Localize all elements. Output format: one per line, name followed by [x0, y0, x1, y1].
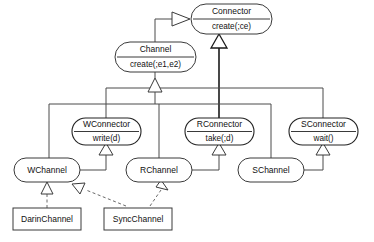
node-schannel[interactable]: SChannel: [238, 158, 304, 182]
node-wconnector-operation: write(d): [92, 134, 121, 143]
node-darinchannel[interactable]: DarinChannel: [13, 208, 81, 230]
node-connector-name: Connector: [212, 6, 251, 16]
node-rchannel-name: RChannel: [140, 165, 178, 175]
uml-class-diagram: Connector create(;ce) Channel create(;e1…: [0, 0, 374, 242]
node-rconnector-name: RConnector: [197, 119, 243, 129]
edge-syncchannel-to-rchannel: [150, 190, 161, 206]
edge-rchannel-to-rconnector: [192, 155, 219, 170]
edge-syncchannel-to-wchannel: [86, 190, 126, 206]
node-channel-name: Channel: [140, 44, 172, 54]
node-channel[interactable]: Channel create(;e1,e2): [115, 42, 196, 72]
arrowhead-syncchannel-to-wchannel: [72, 183, 85, 194]
node-wconnector[interactable]: WConnector write(d): [72, 118, 141, 145]
edge-wchannel-to-wconnector: [80, 155, 106, 170]
node-syncchannel-name: SyncChannel: [113, 214, 164, 224]
node-wchannel-name: WChannel: [27, 165, 67, 175]
arrowhead-to-channel: [148, 78, 162, 92]
edge-channel-to-connector: [155, 19, 172, 42]
node-rconnector-operation: take(;d): [206, 134, 234, 143]
arrowhead-darinchannel-to-wchannel: [41, 182, 53, 194]
node-connector-operation: create(;ce): [212, 22, 251, 31]
node-wconnector-name: WConnector: [83, 119, 130, 129]
node-wchannel[interactable]: WChannel: [14, 158, 80, 182]
edge-schannel-to-sconnector: [304, 155, 323, 170]
node-sconnector[interactable]: SConnector wait(): [289, 118, 358, 145]
diagram-canvas: Connector create(;ce) Channel create(;e1…: [0, 0, 374, 242]
node-channel-operation: create(;e1,e2): [130, 60, 181, 69]
node-connector[interactable]: Connector create(;ce): [191, 4, 272, 34]
node-syncchannel[interactable]: SyncChannel: [104, 208, 172, 230]
arrowhead-rconnector-to-connector: [211, 34, 227, 48]
arrowhead-channel-to-connector: [172, 12, 190, 26]
node-schannel-name: SChannel: [252, 165, 289, 175]
node-layer: Connector create(;ce) Channel create(;e1…: [13, 4, 358, 230]
node-sconnector-operation: wait(): [312, 134, 333, 143]
node-darinchannel-name: DarinChannel: [21, 214, 73, 224]
node-rchannel[interactable]: RChannel: [126, 158, 192, 182]
node-sconnector-name: SConnector: [301, 119, 346, 129]
node-rconnector[interactable]: RConnector take(;d): [185, 118, 254, 145]
